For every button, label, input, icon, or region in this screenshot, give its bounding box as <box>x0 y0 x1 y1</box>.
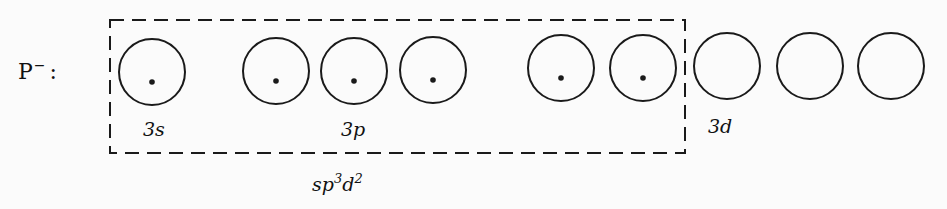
orbital-3s-0 <box>119 39 185 105</box>
electron-dot <box>430 77 436 83</box>
electron-dot <box>640 75 646 81</box>
hyb-mid: d <box>342 173 354 195</box>
orbital-3d-5 <box>610 35 676 101</box>
hybridization-label: sp3d2 <box>312 172 363 194</box>
label-3p: 3p <box>341 120 365 139</box>
hyb-exp2: 2 <box>354 171 362 186</box>
hyb-exp1: 3 <box>334 171 342 186</box>
label-3d: 3d <box>708 117 732 136</box>
orbital-3p-3 <box>400 37 466 103</box>
orbital-3d-8 <box>858 33 924 99</box>
ion-label: P−: <box>18 58 57 83</box>
hyb-base: sp <box>312 173 334 195</box>
orbital-diagram <box>0 0 947 209</box>
ion-separator: : <box>50 59 57 84</box>
electron-dot <box>558 75 564 81</box>
electron-dot <box>273 78 279 84</box>
orbital-group <box>119 33 924 105</box>
orbital-3p-1 <box>243 38 309 104</box>
orbital-3d-4 <box>528 35 594 101</box>
ion-charge: − <box>34 57 46 73</box>
orbital-3p-2 <box>321 38 387 104</box>
ion-symbol: P <box>18 59 33 84</box>
hybridization-dashed-box <box>110 20 685 153</box>
orbital-3d-6 <box>694 33 760 99</box>
electron-dot <box>351 78 357 84</box>
orbital-3d-7 <box>777 33 843 99</box>
electron-dot <box>149 79 155 85</box>
label-3s: 3s <box>143 120 165 139</box>
